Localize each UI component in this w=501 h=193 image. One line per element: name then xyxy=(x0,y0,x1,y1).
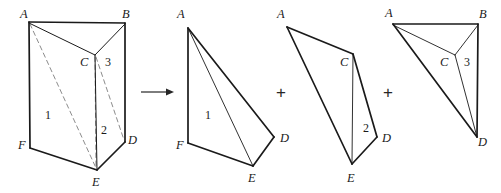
tetra2-edge-C-E xyxy=(352,54,353,164)
tetra2-edge-D-E xyxy=(352,137,377,164)
tetra-two-panel xyxy=(287,27,377,164)
prism-edge-E-D xyxy=(97,142,125,170)
geometry-figure: A B C F E D 1 2 3 A F E D 1 A C E D 2 A … xyxy=(0,0,501,193)
tetra3-vertex-label-D: D xyxy=(478,136,487,149)
prism-edge-A-C xyxy=(29,23,95,55)
prism-region-label-2: 2 xyxy=(101,124,107,136)
prism-region-label-1: 1 xyxy=(45,109,51,121)
tetra3-vertex-label-C: C xyxy=(440,56,448,69)
plus-sign-one: + xyxy=(276,84,286,101)
tetra1-edge-F-E xyxy=(188,143,253,166)
tetra2-vertex-label-A: A xyxy=(277,8,285,21)
prism-edge-A-B xyxy=(29,22,125,23)
tetra3-region-label-3: 3 xyxy=(464,56,470,68)
tetra2-edge-A-C xyxy=(287,27,353,54)
prism-vertex-label-F: F xyxy=(18,139,26,152)
tetra1-edge-D-A xyxy=(188,28,274,137)
tetra3-edge-A-C xyxy=(393,25,455,55)
tetra2-region-label-2: 2 xyxy=(363,122,369,134)
prism-edge-F-E xyxy=(30,148,97,170)
tetra3-vertex-label-A: A xyxy=(385,7,393,20)
tetra3-edge-D-A xyxy=(393,24,477,137)
prism-visible-edges xyxy=(29,22,125,170)
transform-arrow xyxy=(141,89,174,96)
tetra3-vertex-label-B: B xyxy=(479,8,487,21)
prism-edge-A-E-dashed xyxy=(30,24,96,168)
tetra1-region-label-1: 1 xyxy=(205,109,211,121)
prism-edge-A-F xyxy=(29,22,30,148)
figure-canvas xyxy=(0,0,501,193)
prism-vertex-label-B: B xyxy=(122,8,130,21)
tetra2-vertex-label-D: D xyxy=(382,132,391,145)
prism-hidden-edges xyxy=(30,24,124,168)
tetra2-vertex-label-C: C xyxy=(340,56,348,69)
prism-vertex-label-D: D xyxy=(128,134,137,147)
prism-region-label-3: 3 xyxy=(105,56,111,68)
tetra2-vertex-label-E: E xyxy=(347,172,355,185)
tetra-three-panel xyxy=(393,24,478,137)
tetra3-edge-B-C xyxy=(455,25,478,55)
prism-vertex-label-C: C xyxy=(80,56,88,69)
plus-sign-two: + xyxy=(383,84,393,101)
tetra1-vertex-label-E: E xyxy=(248,172,256,185)
arrow-head xyxy=(166,89,174,96)
prism-vertex-label-A: A xyxy=(20,8,28,21)
prism-vertex-label-E: E xyxy=(92,176,100,189)
tetra1-edge-E-D xyxy=(253,137,274,166)
prism-panel xyxy=(29,22,125,170)
prism-edge-B-C xyxy=(95,24,125,55)
tetra1-vertex-label-F: F xyxy=(176,139,184,152)
tetra1-vertex-label-D: D xyxy=(280,132,289,145)
tetra-one-panel xyxy=(188,28,274,166)
tetra2-edge-E-A xyxy=(287,27,352,164)
tetra3-edge-B-D xyxy=(477,24,478,137)
tetra1-vertex-label-A: A xyxy=(177,8,185,21)
